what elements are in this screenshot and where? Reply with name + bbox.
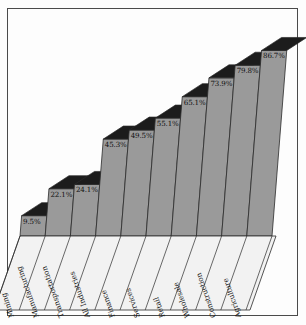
bar-top-face [262, 37, 306, 50]
bar-value-label: 73.9% [210, 79, 232, 88]
bar-value-label: 9.5% [23, 217, 40, 226]
bar-value-label: 65.1% [184, 98, 206, 107]
bar-value-label: 22.1% [50, 190, 72, 199]
bar-value-label: 49.5% [131, 131, 153, 140]
bar-value-label: 24.1% [76, 185, 98, 194]
bar-value-label: 86.7% [263, 51, 285, 60]
bars-group [20, 37, 306, 236]
bar-value-label: 55.1% [157, 119, 179, 128]
chart-figure: 9.5%22.1%24.1%45.3%49.5%55.1%65.1%73.9%7… [0, 0, 306, 325]
bar-value-label: 45.3% [105, 140, 127, 149]
bar-value-label: 79.8% [237, 66, 259, 75]
